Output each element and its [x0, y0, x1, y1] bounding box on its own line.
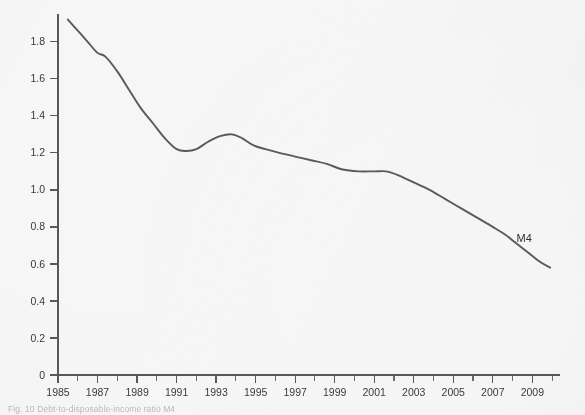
y-axis-ticks: 00.20.40.60.81.01.21.41.61.8: [30, 35, 58, 380]
figure-caption: Fig. 10 Debt-to-disposable-income ratio …: [8, 404, 578, 414]
y-tick-label: 1.2: [30, 146, 45, 158]
y-tick-label: 0.6: [30, 258, 45, 270]
x-tick-label: 1993: [204, 386, 228, 398]
x-tick-label: 1987: [86, 386, 110, 398]
x-tick-label: 1997: [283, 386, 307, 398]
series-label-m4: M4: [517, 232, 532, 244]
x-tick-label: 2001: [363, 386, 387, 398]
x-tick-label: 1995: [244, 386, 268, 398]
x-tick-label: 2003: [402, 386, 426, 398]
y-tick-label: 1.4: [30, 109, 45, 121]
series-annotations: M4: [517, 232, 532, 244]
data-series-group: [68, 20, 550, 268]
y-tick-label: 1.8: [30, 35, 45, 47]
y-tick-label: 0.8: [30, 220, 45, 232]
x-tick-label: 2007: [481, 386, 505, 398]
x-axis-ticks: 1985198719891991199319951997199920012003…: [46, 375, 552, 398]
x-tick-label: 2009: [521, 386, 545, 398]
y-tick-label: 0.4: [30, 295, 45, 307]
x-tick-label: 1991: [165, 386, 189, 398]
x-tick-label: 2005: [442, 386, 466, 398]
y-tick-label: 0.2: [30, 332, 45, 344]
x-tick-label: 1989: [125, 386, 149, 398]
figure-container: 00.20.40.60.81.01.21.41.61.8 19851987198…: [0, 0, 585, 415]
x-tick-label: 1999: [323, 386, 347, 398]
line-chart: 00.20.40.60.81.01.21.41.61.8 19851987198…: [0, 0, 585, 415]
y-tick-label: 0: [39, 369, 45, 381]
y-tick-label: 1.6: [30, 72, 45, 84]
x-tick-label: 1985: [46, 386, 70, 398]
series-line-m4: [68, 20, 550, 268]
y-tick-label: 1.0: [30, 183, 45, 195]
